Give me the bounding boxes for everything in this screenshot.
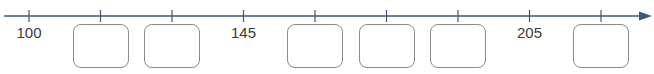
number-line-diagram: 100145205 [0,0,654,74]
tick-label: 100 [16,24,41,41]
answer-box[interactable] [573,24,629,68]
answer-box[interactable] [287,24,343,68]
answer-box[interactable] [73,24,129,68]
answer-box[interactable] [430,24,486,68]
tick-label: 145 [231,24,256,41]
answer-box[interactable] [144,24,200,68]
arrow-right-icon [639,12,652,21]
answer-box[interactable] [359,24,415,68]
tick-label: 205 [517,24,542,41]
